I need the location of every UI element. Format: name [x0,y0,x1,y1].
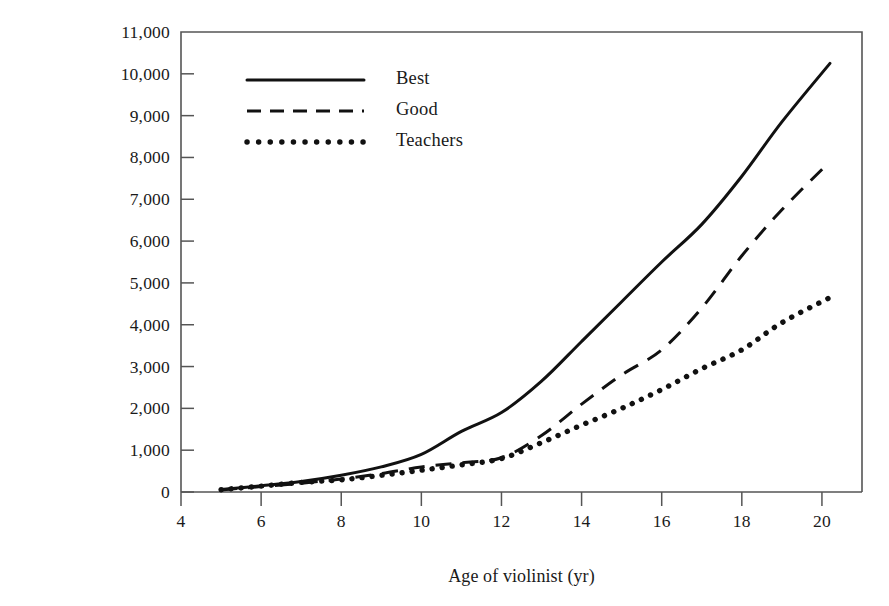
chart-figure: Estimated Accumlated Practice (hr) 01,00… [0,0,889,606]
y-tick-label: 2,000 [78,398,170,419]
y-tick-label: 0 [78,482,170,503]
y-tick-label: 10,000 [78,63,170,84]
series-line-best [221,63,830,489]
plot-frame [181,32,862,492]
y-tick-label: 1,000 [78,440,170,461]
x-tick-label: 4 [156,511,206,532]
x-tick-label: 6 [236,511,286,532]
x-tick-label: 14 [557,511,607,532]
y-tick-label: 4,000 [78,314,170,335]
y-tick-label: 8,000 [78,147,170,168]
x-tick-label: 16 [637,511,687,532]
x-axis-label: Age of violinist (yr) [180,566,863,587]
x-tick-label: 12 [476,511,526,532]
y-tick-label: 6,000 [78,231,170,252]
legend-label-good: Good [396,99,438,120]
legend-label-teachers: Teachers [396,130,463,151]
legend-label-best: Best [396,68,430,89]
y-tick-label: 5,000 [78,272,170,293]
y-tick-label: 9,000 [78,105,170,126]
x-tick-label: 20 [797,511,847,532]
y-tick-label: 11,000 [78,22,170,43]
x-tick-label: 10 [396,511,446,532]
series-line-good [221,162,830,490]
y-tick-label: 3,000 [78,356,170,377]
x-tick-label: 8 [316,511,366,532]
x-tick-label: 18 [717,511,767,532]
y-tick-label: 7,000 [78,189,170,210]
